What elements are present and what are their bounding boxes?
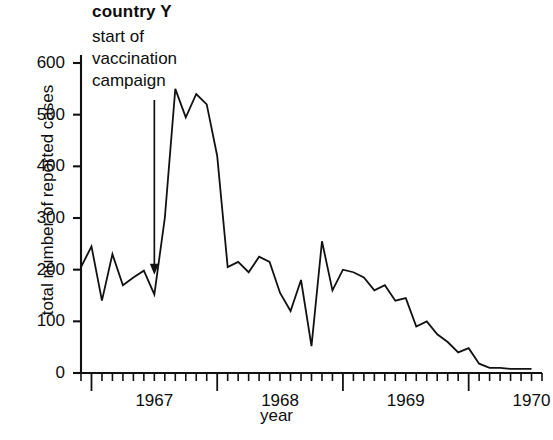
chart-container: country Y start of vaccination campaign … [0,0,553,440]
data-series-group [81,89,532,369]
tick-marks-group [81,373,542,391]
chart-svg [0,0,553,440]
series-line [81,89,532,369]
annotation-arrow-group [150,100,159,275]
